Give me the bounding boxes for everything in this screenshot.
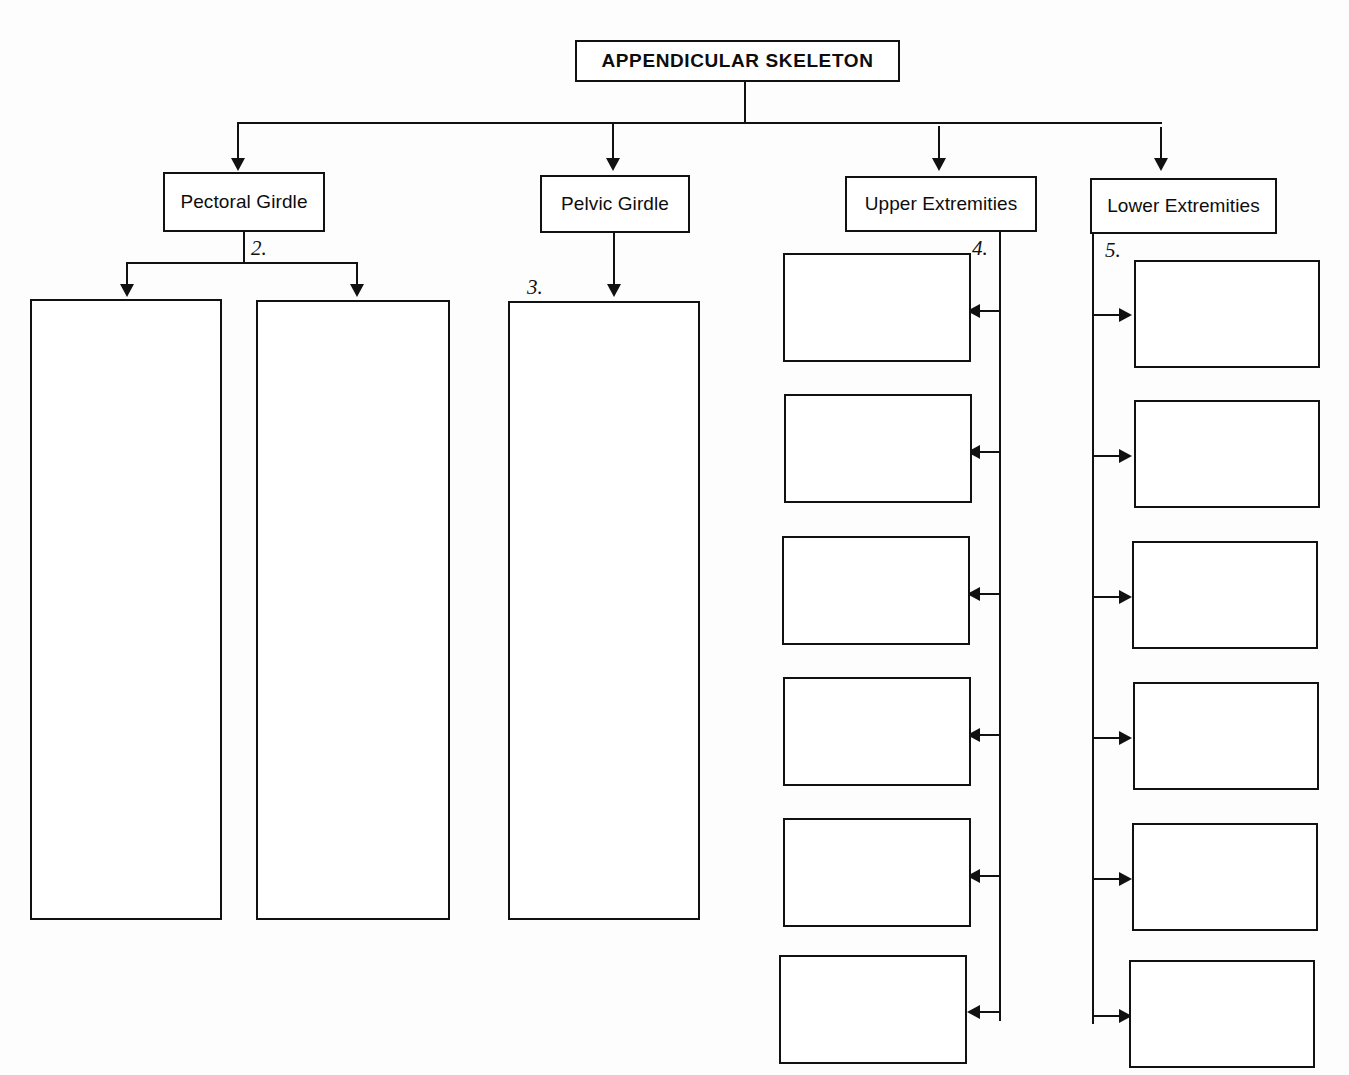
callout-3: 3.: [527, 275, 543, 300]
branch-drop-line-pectoral: [237, 122, 239, 160]
lower-extremity-spine: [1092, 234, 1094, 1024]
upper-connector-line-4: [978, 734, 1001, 736]
lower-blank-5[interactable]: [1132, 823, 1318, 931]
lower-blank-3[interactable]: [1132, 541, 1318, 649]
branch-drop-line-pelvic: [612, 124, 614, 160]
branch-label-pelvic-girdle: Pelvic Girdle: [561, 193, 669, 215]
arrowhead-down-lower: [1154, 158, 1168, 171]
lower-connector-line-3: [1092, 596, 1121, 598]
branch-label-pectoral-girdle: Pectoral Girdle: [180, 191, 307, 213]
lower-connector-line-1: [1092, 314, 1121, 316]
upper-blank-1[interactable]: [783, 253, 971, 362]
arrowhead-right-lower-blank-5: [1119, 872, 1132, 886]
pectoral-stem-line: [243, 232, 245, 263]
arrowhead-down-pelvic: [606, 158, 620, 171]
diagram-canvas: APPENDICULAR SKELETON Pectoral Girdle Pe…: [0, 0, 1349, 1075]
branch-box-lower-extremities: Lower Extremities: [1090, 178, 1277, 234]
arrowhead-right-lower-blank-3: [1119, 590, 1132, 604]
title-box: APPENDICULAR SKELETON: [575, 40, 900, 82]
lower-blank-6[interactable]: [1129, 960, 1315, 1068]
callout-4: 4.: [972, 236, 988, 261]
upper-connector-line-5: [978, 875, 1001, 877]
pectoral-blank-2[interactable]: [256, 300, 450, 920]
arrowhead-right-lower-blank-2: [1119, 449, 1132, 463]
upper-connector-line-3: [978, 593, 1001, 595]
upper-blank-5[interactable]: [783, 818, 971, 927]
lower-connector-line-4: [1092, 737, 1121, 739]
title-stem-line: [744, 82, 746, 123]
pelvic-stem-line: [613, 233, 615, 285]
arrowhead-down-pectoral-blank-2: [350, 284, 364, 297]
arrowhead-down-pectoral: [231, 158, 245, 171]
branch-box-pectoral-girdle: Pectoral Girdle: [163, 172, 325, 232]
pectoral-distribution-bar: [126, 262, 358, 264]
arrowhead-right-lower-blank-4: [1119, 731, 1132, 745]
upper-connector-line-2: [978, 451, 1001, 453]
branch-label-upper-extremities: Upper Extremities: [865, 193, 1018, 215]
upper-blank-6[interactable]: [779, 955, 967, 1064]
main-distribution-bar: [237, 122, 1162, 124]
pelvic-blank-1[interactable]: [508, 301, 700, 920]
lower-blank-2[interactable]: [1134, 400, 1320, 508]
branch-box-upper-extremities: Upper Extremities: [845, 176, 1037, 232]
lower-blank-1[interactable]: [1134, 260, 1320, 368]
arrowhead-right-lower-blank-1: [1119, 308, 1132, 322]
arrowhead-down-pelvic-blank-1: [607, 284, 621, 297]
branch-drop-line-lower: [1160, 127, 1162, 160]
callout-5: 5.: [1105, 238, 1121, 263]
upper-blank-2[interactable]: [784, 394, 972, 503]
upper-connector-line-6: [978, 1011, 1001, 1013]
upper-extremity-spine: [999, 232, 1001, 1021]
lower-connector-line-5: [1092, 878, 1121, 880]
callout-2: 2.: [251, 236, 267, 261]
arrowhead-down-upper: [932, 158, 946, 171]
upper-blank-3[interactable]: [782, 536, 970, 645]
pectoral-drop-line-2: [356, 263, 358, 286]
lower-connector-line-2: [1092, 455, 1121, 457]
title-box-label: APPENDICULAR SKELETON: [602, 50, 874, 72]
upper-connector-line-1: [978, 310, 1001, 312]
branch-drop-line-upper: [938, 126, 940, 160]
lower-blank-4[interactable]: [1133, 682, 1319, 790]
lower-connector-line-6: [1092, 1015, 1121, 1017]
arrowhead-left-upper-blank-6: [967, 1005, 980, 1019]
pectoral-drop-line-1: [126, 262, 128, 286]
branch-label-lower-extremities: Lower Extremities: [1107, 195, 1260, 217]
pectoral-blank-1[interactable]: [30, 299, 222, 920]
branch-box-pelvic-girdle: Pelvic Girdle: [540, 175, 690, 233]
upper-blank-4[interactable]: [783, 677, 971, 786]
scan-artifact: [540, 0, 740, 8]
arrowhead-down-pectoral-blank-1: [120, 284, 134, 297]
